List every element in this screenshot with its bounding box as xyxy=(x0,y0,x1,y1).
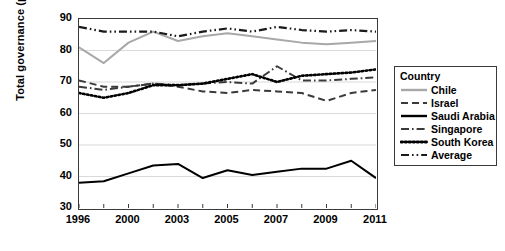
legend-key-icon xyxy=(400,84,428,95)
legend-item-chile[interactable]: Chile xyxy=(400,83,492,96)
chart-canvas xyxy=(79,19,376,208)
series-line-saudi-arabia xyxy=(79,161,376,183)
legend-item-saudi-arabia[interactable]: Saudi Arabia xyxy=(400,109,492,122)
y-axis-title: Total governance (percentile) xyxy=(11,0,29,123)
chart-legend: Country ChileIsraelSaudi ArabiaSingapore… xyxy=(394,66,497,166)
y-tick-label: 70 xyxy=(44,74,72,86)
legend-item-south-korea[interactable]: South Korea xyxy=(400,135,492,148)
x-tick-label: 2007 xyxy=(253,213,299,225)
legend-key-icon xyxy=(400,97,428,108)
legend-title: Country xyxy=(400,70,492,82)
y-tick-label: 30 xyxy=(44,200,72,212)
legend-item-label: Singapore xyxy=(431,123,482,135)
chart-figure: Total governance (percentile) 9080706050… xyxy=(0,0,505,251)
y-tick-label: 50 xyxy=(44,137,72,149)
legend-key-icon xyxy=(400,149,428,160)
series-line-south-korea xyxy=(79,69,376,97)
x-tick-label: 1996 xyxy=(55,213,101,225)
y-tick-label: 80 xyxy=(44,43,72,55)
plot-area xyxy=(78,18,378,210)
legend-item-label: Saudi Arabia xyxy=(431,110,495,122)
y-tick-label: 90 xyxy=(44,11,72,23)
legend-items: ChileIsraelSaudi ArabiaSingaporeSouth Ko… xyxy=(400,83,492,161)
legend-item-label: Chile xyxy=(431,84,457,96)
series-line-average xyxy=(79,27,376,36)
legend-key-icon xyxy=(400,123,428,134)
legend-key-icon xyxy=(400,110,428,121)
x-tick-label: 2000 xyxy=(105,213,151,225)
legend-item-label: Average xyxy=(431,149,472,161)
legend-item-israel[interactable]: Israel xyxy=(400,96,492,109)
x-tick-label: 2009 xyxy=(303,213,349,225)
y-tick-label: 60 xyxy=(44,106,72,118)
legend-item-average[interactable]: Average xyxy=(400,148,492,161)
x-tick-label: 2005 xyxy=(204,213,250,225)
legend-key-icon xyxy=(400,136,428,147)
y-tick-label: 40 xyxy=(44,169,72,181)
x-tick-label: 2011 xyxy=(352,213,398,225)
legend-item-label: South Korea xyxy=(431,136,493,148)
legend-item-label: Israel xyxy=(431,97,458,109)
legend-item-singapore[interactable]: Singapore xyxy=(400,122,492,135)
series-line-chile xyxy=(79,32,376,63)
series-line-israel xyxy=(79,80,376,100)
x-tick-label: 2003 xyxy=(154,213,200,225)
